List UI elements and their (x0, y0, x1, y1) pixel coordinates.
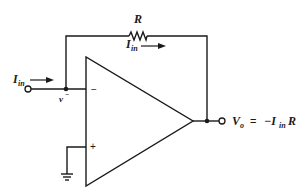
svg-text:in: in (131, 44, 138, 53)
output-equation: V o = −I in R (232, 114, 296, 130)
svg-text:−I: −I (264, 114, 277, 128)
feedback-current-arrow-icon (141, 43, 166, 49)
ground-icon (61, 174, 73, 180)
inverting-input-sign: − (91, 84, 97, 95)
output-junction (205, 119, 210, 124)
resistor-r (129, 32, 147, 40)
svg-text:in: in (18, 79, 25, 88)
input-terminal (25, 86, 31, 92)
input-current-label: I in (12, 72, 25, 88)
svg-text:o: o (240, 121, 244, 130)
circuit-diagram: R I in I in v − − + V o = (0, 0, 302, 194)
resistor-label: R (133, 12, 142, 26)
inverting-node-label: v − (59, 91, 69, 104)
svg-text:R: R (287, 114, 296, 128)
input-current-arrow-icon (30, 77, 54, 83)
ground-wire (67, 147, 86, 174)
svg-text:−: − (65, 91, 69, 98)
svg-text:in: in (279, 121, 286, 130)
noninverting-input-sign: + (90, 141, 96, 152)
output-terminal (219, 118, 225, 124)
opamp-triangle (86, 57, 193, 186)
svg-text:=: = (250, 115, 256, 127)
feedback-current-label: I in (125, 37, 138, 53)
svg-text:v: v (59, 94, 64, 104)
